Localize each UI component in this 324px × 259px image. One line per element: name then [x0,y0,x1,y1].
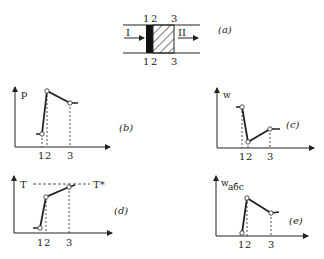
hatched-region [153,25,174,53]
mark-bottom-1: 1 [143,56,149,67]
panel-d-label: (d) [114,205,128,216]
y-axis-label: w [223,90,231,100]
tick-3: 3 [67,150,73,161]
panel-b-label: (b) [119,122,133,133]
tick-1: 1 [239,151,245,162]
mark-top-3: 3 [171,13,177,24]
panel-c-velocity-plot: w 1 2 3 (c) [217,88,314,162]
region-I-label: I [126,27,130,38]
y-axis-label: p [21,88,27,99]
mark-top-2: 2 [151,13,157,24]
tick-1: 1 [37,237,43,248]
tick-1: 1 [38,150,44,161]
panel-a-label: (a) [218,24,232,35]
panel-a-channel-diagram: 1 2 3 1 2 3 I II (a) [123,13,232,67]
mark-bottom-3: 3 [171,56,177,67]
panel-e-absolute-velocity-plot: w абс 1 2 3 (e) [216,176,308,250]
region-II-label: II [178,27,186,38]
tick-2: 2 [45,150,51,161]
tick-2: 2 [245,239,251,250]
temperature-curve [40,187,69,228]
black-layer [146,25,153,53]
tick-2: 2 [246,151,252,162]
panel-b-pressure-plot: p 1 2 3 (b) [15,87,133,161]
panel-d-temperature-plot: T T* 1 2 3 (d) [14,176,128,248]
panel-c-label: (c) [286,119,300,130]
t-star-label: T* [93,179,105,190]
y-axis-subscript: абс [228,182,244,192]
abs-velocity-curve [242,198,271,233]
tick-1: 1 [238,239,244,250]
tick-3: 3 [66,237,72,248]
tick-2: 2 [44,237,50,248]
y-axis-label: T [20,179,27,190]
pressure-curve [42,91,70,134]
tick-3: 3 [268,239,274,250]
velocity-curve [242,107,270,142]
mark-bottom-2: 2 [151,56,157,67]
tick-3: 3 [267,151,273,162]
mark-top-1: 1 [143,13,149,24]
panel-e-label: (e) [289,215,303,226]
